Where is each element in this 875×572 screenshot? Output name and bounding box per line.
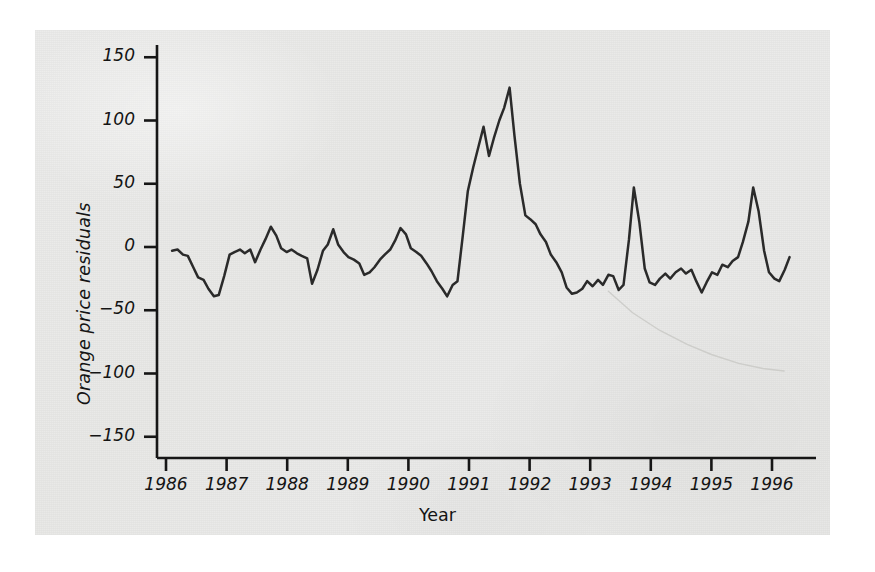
y-tick-label: 50 xyxy=(40,172,135,192)
x-tick-label: 1996 xyxy=(732,474,812,494)
scan-crease-artifact xyxy=(608,291,784,371)
y-tick-label: 0 xyxy=(40,235,135,255)
series-orange-price-residuals xyxy=(172,88,790,297)
y-tick-label: −150 xyxy=(40,425,135,445)
x-axis-title: Year xyxy=(0,505,875,525)
data-series-layer xyxy=(172,88,790,297)
chart-axes xyxy=(144,45,816,471)
y-tick-label: 150 xyxy=(40,45,135,65)
y-tick-label: −50 xyxy=(40,298,135,318)
y-tick-label: −100 xyxy=(40,362,135,382)
y-tick-label: 100 xyxy=(40,109,135,129)
figure-container: Orange price residuals Year 150100500−50… xyxy=(0,0,875,572)
